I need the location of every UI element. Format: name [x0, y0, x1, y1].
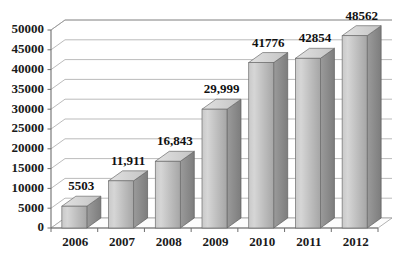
- x-axis-category-label: 2009: [203, 234, 230, 249]
- bar-front-face: [342, 36, 367, 228]
- bar-front-face: [155, 161, 180, 228]
- bar-column[interactable]: [249, 53, 288, 228]
- y-axis-tick-label: 5000: [18, 200, 44, 215]
- bar-value-label: 5503: [68, 178, 95, 193]
- bar-value-label: 11,911: [111, 153, 145, 168]
- bar-front-face: [249, 63, 274, 228]
- bar-side-face: [320, 48, 334, 228]
- bar-value-label: 48562: [345, 8, 378, 23]
- y-axis-tick-label: 10000: [12, 180, 45, 195]
- bar-value-label: 41776: [252, 35, 285, 50]
- x-axis-category-label: 2010: [249, 234, 275, 249]
- bar-chart-container: 0500010000150002000025000300003500040000…: [0, 0, 401, 253]
- bar-column[interactable]: [202, 99, 241, 228]
- bar-side-face: [227, 99, 241, 228]
- bar-value-label: 42854: [299, 30, 332, 45]
- bar-side-face: [274, 53, 288, 228]
- bar-column[interactable]: [295, 48, 334, 228]
- bar-side-face: [367, 26, 381, 228]
- y-axis-tick-label: 40000: [12, 61, 45, 76]
- x-axis-category-label: 2008: [156, 234, 183, 249]
- y-axis-tick-label: 45000: [12, 41, 45, 56]
- y-axis-tick-label: 20000: [12, 140, 45, 155]
- y-axis-tick-label: 25000: [12, 120, 45, 135]
- bar-column[interactable]: [155, 151, 194, 228]
- chart-background: [0, 0, 401, 253]
- bar-front-face: [109, 181, 134, 228]
- bar-front-face: [202, 109, 227, 228]
- x-axis-category-label: 2012: [343, 234, 369, 249]
- bar-front-face: [295, 58, 320, 228]
- bar-side-face: [180, 151, 194, 228]
- bar-front-face: [62, 206, 87, 228]
- bar-column[interactable]: [109, 171, 148, 228]
- bar-column[interactable]: [342, 26, 381, 228]
- y-axis-tick-label: 15000: [12, 160, 45, 175]
- y-axis-tick-label: 35000: [12, 81, 45, 96]
- y-axis-tick-label: 0: [38, 219, 45, 234]
- x-axis-category-label: 2007: [109, 234, 136, 249]
- bar-value-label: 29,999: [204, 81, 240, 96]
- bar-value-label: 16,843: [157, 133, 193, 148]
- y-axis-tick-label: 30000: [12, 101, 45, 116]
- y-axis-tick-label: 50000: [12, 21, 45, 36]
- x-axis-category-label: 2011: [296, 234, 321, 249]
- x-axis-category-label: 2006: [62, 234, 89, 249]
- column-chart-3d: 0500010000150002000025000300003500040000…: [0, 0, 401, 253]
